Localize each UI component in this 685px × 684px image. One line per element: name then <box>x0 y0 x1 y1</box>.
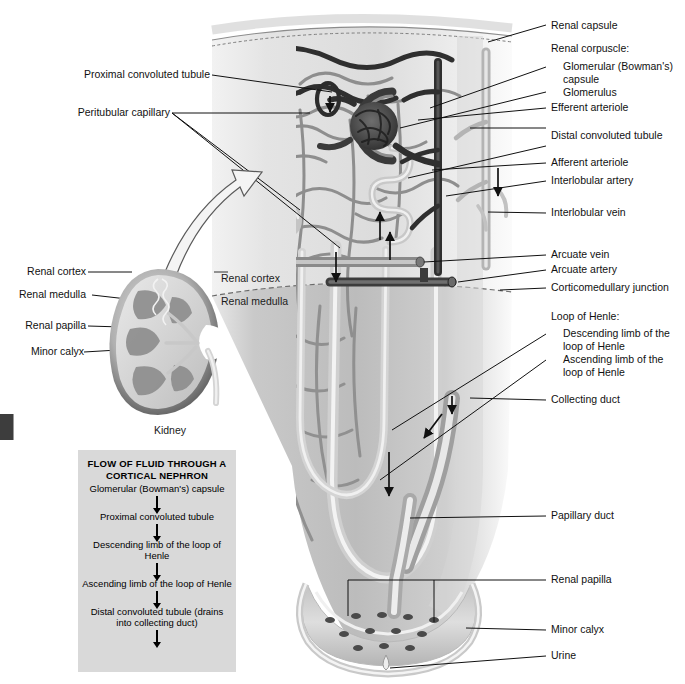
flowchart-title-line1: FLOW OF FLUID THROUGH A <box>88 458 227 469</box>
label-efferent-arteriole: Efferent arteriole <box>551 101 628 114</box>
label-interior-renal-medulla: Renal medulla <box>221 295 288 307</box>
label-glomerulus: Glomerulus <box>563 86 617 99</box>
label-loop-of-henle: Loop of Henle: <box>551 310 619 323</box>
flowchart-arrow-3 <box>78 561 236 578</box>
label-peritubular-capillary: Peritubular capillary <box>18 106 170 119</box>
flowchart-arrow-1 <box>78 494 236 511</box>
label-interlobular-vein: Interlobular vein <box>551 206 626 219</box>
label-renal-papilla-main: Renal papilla <box>551 573 612 586</box>
label-inset-renal-papilla: Renal papilla <box>6 319 86 332</box>
flowchart-step-5: Distal convoluted tubule (drains into co… <box>78 606 236 628</box>
label-distal-convoluted-tubule: Distal convoluted tubule <box>551 129 663 142</box>
figure-canvas: Proximal convoluted tubule Peritubular c… <box>0 0 685 684</box>
inset-caption: Kidney <box>140 424 200 436</box>
flowchart-step-1: Glomerular (Bowman's) capsule <box>78 483 236 494</box>
label-corticomedullary-junction: Corticomedullary junction <box>551 281 669 294</box>
label-afferent-arteriole: Afferent arteriole <box>551 156 628 169</box>
label-arcuate-artery: Arcuate artery <box>551 263 617 276</box>
label-ascending-limb: Ascending limb of the loop of Henle <box>563 353 663 378</box>
kidney-inset-illustration <box>96 263 232 423</box>
label-inset-renal-medulla: Renal medulla <box>6 288 86 301</box>
label-renal-corpuscle: Renal corpuscle: <box>551 42 629 55</box>
label-descending-limb: Descending limb of the loop of Henle <box>563 327 670 352</box>
label-interior-renal-cortex: Renal cortex <box>221 272 280 284</box>
label-collecting-duct: Collecting duct <box>551 393 620 406</box>
label-arcuate-vein: Arcuate vein <box>551 248 609 261</box>
flowchart-step-3: Descending limb of the loop of Henle <box>78 539 236 561</box>
label-glomerular-bowmans-capsule: Glomerular (Bowman's) capsule <box>563 60 673 85</box>
label-inset-renal-cortex: Renal cortex <box>6 265 86 278</box>
label-minor-calyx-main: Minor calyx <box>551 623 604 636</box>
label-renal-capsule: Renal capsule <box>551 19 618 32</box>
label-interlobular-artery: Interlobular artery <box>551 174 633 187</box>
label-proximal-convoluted-tubule: Proximal convoluted tubule <box>18 68 210 81</box>
label-papillary-duct: Papillary duct <box>551 509 614 522</box>
label-inset-minor-calyx: Minor calyx <box>6 345 84 358</box>
flowchart-title-line2: CORTICAL NEPHRON <box>106 470 208 481</box>
flowchart-title: FLOW OF FLUID THROUGH A CORTICAL NEPHRON <box>78 450 236 483</box>
flowchart-arrow-2 <box>78 522 236 539</box>
flowchart-arrow-5 <box>78 628 236 645</box>
flow-of-fluid-flowchart: FLOW OF FLUID THROUGH A CORTICAL NEPHRON… <box>78 450 236 672</box>
page-margin-tab <box>0 414 14 440</box>
flowchart-arrow-4 <box>78 589 236 606</box>
label-urine: Urine <box>551 649 576 662</box>
